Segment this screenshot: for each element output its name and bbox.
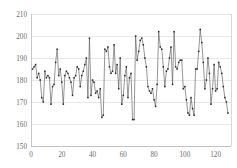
data-point: [183, 88, 185, 90]
data-point: [107, 46, 109, 48]
data-point: [61, 81, 63, 83]
data-point: [83, 70, 85, 72]
data-point: [86, 57, 88, 59]
data-point: [179, 59, 181, 61]
data-point: [199, 29, 201, 31]
data-point: [67, 73, 69, 75]
data-point: [227, 112, 229, 114]
data-point: [119, 57, 121, 59]
data-point: [118, 88, 120, 90]
x-tick-label-100: 100: [179, 151, 190, 159]
y-tick-label-200: 200: [16, 33, 27, 41]
data-point: [216, 88, 218, 90]
data-point: [124, 75, 126, 77]
data-point: [52, 86, 54, 88]
data-point: [147, 86, 149, 88]
data-point: [72, 95, 74, 97]
data-point: [64, 75, 66, 77]
data-point: [210, 103, 212, 105]
data-point: [36, 77, 38, 79]
data-point: [92, 79, 94, 81]
data-point: [129, 77, 131, 79]
data-point: [176, 68, 178, 70]
data-point: [173, 31, 175, 32]
data-point: [38, 73, 40, 75]
chart-canvas: 150160170180190200210 020406080100120: [0, 0, 237, 168]
data-point: [153, 99, 155, 101]
data-point: [166, 70, 168, 72]
y-axis-tick-labels: 150160170180190200210: [16, 11, 27, 151]
data-point: [169, 57, 171, 59]
data-point: [144, 57, 146, 59]
data-point: [113, 44, 115, 46]
data-point: [130, 73, 132, 75]
data-point: [213, 64, 215, 66]
data-point: [201, 42, 203, 44]
x-tick-label-120: 120: [210, 151, 221, 159]
data-point: [189, 114, 191, 116]
data-point: [126, 66, 128, 68]
data-point: [123, 95, 125, 97]
data-point: [190, 97, 192, 99]
data-point: [46, 77, 48, 79]
data-point: [90, 95, 92, 97]
data-point: [141, 37, 143, 39]
data-point: [50, 103, 52, 105]
data-point: [112, 70, 114, 72]
data-point: [223, 86, 225, 88]
data-point: [164, 86, 166, 88]
data-point: [152, 88, 154, 90]
data-point: [156, 84, 158, 86]
data-point: [215, 90, 217, 92]
data-point: [161, 48, 163, 50]
y-tick-label-180: 180: [16, 77, 27, 85]
data-point: [39, 79, 41, 81]
data-point: [109, 66, 111, 68]
data-point: [136, 59, 138, 61]
data-point: [181, 59, 183, 61]
data-point: [193, 114, 195, 116]
data-point: [53, 84, 55, 86]
data-point: [106, 51, 108, 53]
data-point: [146, 66, 148, 68]
data-point: [187, 112, 189, 114]
data-point: [79, 86, 81, 88]
x-tick-label-20: 20: [58, 151, 66, 159]
data-point: [33, 66, 35, 68]
data-point: [198, 51, 200, 53]
data-point: [218, 62, 220, 64]
data-point: [170, 46, 172, 48]
data-point: [95, 92, 97, 94]
data-point: [70, 81, 72, 83]
data-point: [159, 46, 161, 48]
data-point: [132, 119, 134, 121]
data-point: [43, 101, 45, 103]
data-point: [35, 64, 37, 66]
data-point: [206, 79, 208, 81]
data-point: [127, 97, 129, 99]
x-tick-label-0: 0: [29, 151, 33, 159]
data-point: [76, 66, 78, 68]
data-point: [56, 48, 58, 50]
data-point: [167, 68, 169, 70]
x-axis-tick-labels: 020406080100120: [29, 151, 221, 159]
data-point: [93, 81, 95, 83]
data-point: [49, 77, 51, 79]
data-point: [138, 51, 140, 53]
data-point: [203, 62, 205, 64]
data-point: [47, 75, 49, 77]
x-tick-label-60: 60: [120, 151, 128, 159]
data-point: [59, 68, 61, 70]
data-point: [172, 84, 174, 86]
data-point: [103, 114, 105, 116]
data-point: [212, 88, 214, 90]
data-point: [66, 70, 68, 72]
data-point: [63, 103, 64, 105]
y-tick-label-170: 170: [16, 99, 27, 107]
data-point: [133, 119, 135, 121]
line-chart: 150160170180190200210 020406080100120: [0, 0, 237, 168]
data-point: [84, 64, 86, 66]
data-point: [69, 77, 71, 79]
data-point: [116, 64, 118, 66]
data-point: [149, 90, 151, 92]
